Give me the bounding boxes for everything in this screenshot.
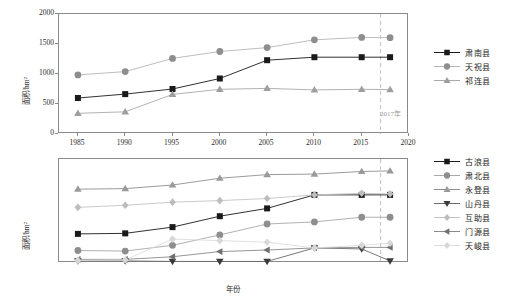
data-point-肃北县 <box>387 214 394 221</box>
data-point-肃北县 <box>169 242 176 249</box>
chart-panel-top: 面积/hm² 0500100015002000 1985199019952000… <box>0 0 528 150</box>
data-point-天祝县 <box>387 34 394 41</box>
data-point-天祝县 <box>169 55 176 62</box>
legend-bottom: 古浪县肃北县永登县山丹县互助县门源县天峻县 <box>434 154 491 252</box>
legend-marker-triangle-left-icon <box>434 226 460 236</box>
y-tick-label: 1000 <box>24 68 54 77</box>
legend-marker-diamond-icon <box>434 212 460 222</box>
data-point-肃北县 <box>311 219 318 226</box>
data-point-古浪县 <box>75 231 81 237</box>
data-point-门源县 <box>216 248 222 255</box>
legend-marker-triangle-up-icon <box>434 184 460 194</box>
legend-label: 永登县 <box>465 184 491 195</box>
data-point-天祝县 <box>358 34 365 41</box>
data-point-互助县 <box>75 204 82 212</box>
plot-lines-top <box>59 14 409 134</box>
legend-item-天峻县[interactable]: 天峻县 <box>434 238 491 252</box>
data-point-门源县 <box>263 247 269 254</box>
figure-root: 面积/hm² 0500100015002000 1985199019952000… <box>0 0 528 301</box>
data-point-山丹县 <box>216 259 224 265</box>
data-point-天祝县 <box>122 68 129 75</box>
data-point-祁连县 <box>386 86 394 92</box>
data-point-古浪县 <box>217 213 223 219</box>
x-tick-label: 2005 <box>250 138 282 147</box>
x-tick-label: 1995 <box>156 138 188 147</box>
data-point-永登县 <box>311 170 319 176</box>
data-point-肃北县 <box>358 214 365 221</box>
x-tick-label: 2020 <box>392 138 424 147</box>
legend-item-天祝县[interactable]: 天祝县 <box>434 59 491 73</box>
legend-label: 肃南县 <box>465 47 491 58</box>
x-tick-label: 2015 <box>345 138 377 147</box>
legend-top: 肃南县天祝县祁连县 <box>434 45 491 87</box>
data-point-肃南县 <box>75 95 81 101</box>
legend-label: 门源县 <box>465 226 491 237</box>
data-point-古浪县 <box>170 224 176 230</box>
plot-area-top <box>58 13 408 133</box>
y-axis-label-bottom: 面积/hm² <box>20 222 31 250</box>
x-tick-label: 1990 <box>108 138 140 147</box>
legend-label: 互助县 <box>465 212 491 223</box>
legend-marker-triangle-up-icon <box>434 75 460 85</box>
legend-item-古浪县[interactable]: 古浪县 <box>434 154 491 168</box>
data-point-肃北县 <box>264 221 271 228</box>
legend-label: 肃北县 <box>465 170 491 181</box>
data-point-祁连县 <box>311 86 319 92</box>
data-point-永登县 <box>263 171 271 177</box>
data-point-肃北县 <box>75 247 82 254</box>
legend-label: 古浪县 <box>465 156 491 167</box>
data-point-天祝县 <box>264 44 271 51</box>
data-point-天峻县 <box>264 238 271 246</box>
legend-item-山丹县[interactable]: 山丹县 <box>434 196 491 210</box>
legend-item-门源县[interactable]: 门源县 <box>434 224 491 238</box>
data-point-肃南县 <box>359 54 365 60</box>
data-point-天峻县 <box>216 237 223 245</box>
data-point-肃南县 <box>122 91 128 97</box>
legend-item-互助县[interactable]: 互助县 <box>434 210 491 224</box>
data-point-山丹县 <box>263 259 271 265</box>
data-point-祁连县 <box>263 85 271 91</box>
y-tick-mark <box>55 133 58 134</box>
data-point-肃南县 <box>264 57 270 63</box>
legend-label: 天祝县 <box>465 61 491 72</box>
data-point-山丹县 <box>386 258 394 264</box>
data-point-永登县 <box>74 185 82 191</box>
legend-label: 山丹县 <box>465 198 491 209</box>
x-tick-label: 2010 <box>297 138 329 147</box>
y-tick-label: 500 <box>24 98 54 107</box>
data-point-肃南县 <box>217 76 223 82</box>
data-point-肃北县 <box>122 248 129 255</box>
legend-label: 天峻县 <box>465 240 491 251</box>
data-point-古浪县 <box>122 230 128 236</box>
x-tick-label: 2000 <box>203 138 235 147</box>
data-point-天祝县 <box>216 48 223 55</box>
legend-marker-square-icon <box>434 47 460 57</box>
y-tick-label: 1500 <box>24 38 54 47</box>
legend-marker-diamond-light-icon <box>434 240 460 250</box>
legend-item-祁连县[interactable]: 祁连县 <box>434 73 491 87</box>
data-point-祁连县 <box>358 86 366 92</box>
legend-marker-square-icon <box>434 156 460 166</box>
data-point-山丹县 <box>169 259 177 265</box>
data-point-肃南县 <box>387 54 393 60</box>
legend-marker-circle-icon <box>434 170 460 180</box>
legend-marker-triangle-down-icon <box>434 198 460 208</box>
data-point-互助县 <box>122 201 129 209</box>
data-point-永登县 <box>386 167 394 173</box>
legend-item-肃南县[interactable]: 肃南县 <box>434 45 491 59</box>
chart-panel-bottom: 面积/hm² 050100150200 19851990199520002005… <box>0 150 528 301</box>
data-point-天祝县 <box>311 36 318 43</box>
legend-item-肃北县[interactable]: 肃北县 <box>434 168 491 182</box>
data-point-古浪县 <box>264 205 270 211</box>
legend-item-永登县[interactable]: 永登县 <box>434 182 491 196</box>
data-point-祁连县 <box>216 86 224 92</box>
data-point-互助县 <box>169 198 176 206</box>
data-point-祁连县 <box>74 110 82 116</box>
plot-lines-bottom <box>59 159 409 263</box>
series-line-古浪县 <box>78 195 390 234</box>
data-point-肃南县 <box>311 54 317 60</box>
legend-marker-circle-icon <box>434 61 460 71</box>
legend-label: 祁连县 <box>465 75 491 86</box>
data-point-永登县 <box>358 168 366 174</box>
data-point-互助县 <box>216 197 223 205</box>
